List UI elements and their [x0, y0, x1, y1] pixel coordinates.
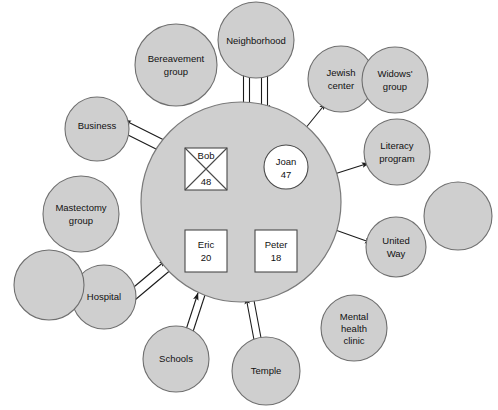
- system-blank-left[interactable]: [14, 250, 84, 320]
- system-jewish-center-label-2: center: [328, 80, 354, 91]
- system-temple[interactable]: Temple: [232, 337, 300, 405]
- system-mental-health-clinic-label-2: health: [341, 323, 367, 334]
- system-schools-label-1: Schools: [159, 353, 193, 364]
- system-literacy-program[interactable]: Literacy program: [364, 119, 430, 185]
- system-widows-group-label-1: Widows': [377, 68, 412, 79]
- system-jewish-center-label-1: Jewish: [326, 67, 355, 78]
- person-bob-age: 48: [201, 176, 212, 187]
- system-united-way[interactable]: United Way: [366, 217, 426, 277]
- system-united-way-label-1: United: [382, 235, 409, 246]
- system-mastectomy-group-label-2: group: [69, 215, 93, 226]
- system-widows-group-label-2: group: [383, 81, 407, 92]
- system-bereavement-group-label-2: group: [164, 66, 188, 77]
- system-literacy-program-label-2: program: [379, 153, 414, 164]
- person-bob-name: Bob: [198, 150, 215, 161]
- person-eric-name: Eric: [198, 239, 215, 250]
- person-eric-age: 20: [201, 252, 212, 263]
- system-hospital-label-1: Hospital: [87, 291, 121, 302]
- system-neighborhood-label-1: Neighborhood: [226, 35, 286, 46]
- person-peter[interactable]: Peter 18: [255, 230, 297, 272]
- system-widows-group[interactable]: Widows' group: [362, 47, 428, 113]
- system-business[interactable]: Business: [65, 97, 129, 161]
- system-schools[interactable]: Schools: [143, 326, 209, 392]
- ecomap-diagram: Bob 48 Joan 47 Eric 20 Peter 18 Bereavem…: [0, 0, 498, 410]
- person-joan-age: 47: [281, 169, 292, 180]
- family-system-circle[interactable]: [141, 102, 341, 302]
- system-mastectomy-group[interactable]: Mastectomy group: [43, 176, 119, 252]
- system-bereavement-group[interactable]: Bereavement group: [135, 24, 217, 106]
- system-business-label-1: Business: [78, 120, 117, 131]
- system-mental-health-clinic-label-1: Mental: [340, 311, 369, 322]
- system-united-way-label-2: Way: [387, 248, 406, 259]
- person-joan[interactable]: Joan 47: [264, 145, 308, 189]
- system-literacy-program-label-1: Literacy: [380, 140, 414, 151]
- person-peter-name: Peter: [265, 239, 288, 250]
- ecomap-canvas: Bob 48 Joan 47 Eric 20 Peter 18 Bereavem…: [0, 0, 498, 410]
- system-neighborhood[interactable]: Neighborhood: [218, 2, 294, 78]
- system-blank-right[interactable]: [424, 182, 492, 250]
- person-joan-name: Joan: [276, 156, 297, 167]
- person-bob[interactable]: Bob 48: [185, 148, 227, 190]
- system-mental-health-clinic[interactable]: Mental health clinic: [321, 295, 387, 361]
- system-temple-label-1: Temple: [251, 365, 282, 376]
- system-mastectomy-group-label-1: Mastectomy: [55, 202, 106, 213]
- system-mental-health-clinic-label-3: clinic: [343, 335, 364, 346]
- person-eric[interactable]: Eric 20: [185, 230, 227, 272]
- system-bereavement-group-label-1: Bereavement: [148, 53, 205, 64]
- person-peter-age: 18: [271, 252, 282, 263]
